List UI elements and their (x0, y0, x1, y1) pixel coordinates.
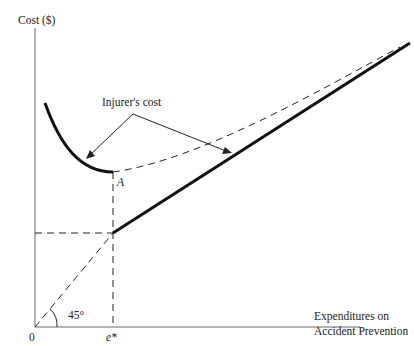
prevention-cost-line (113, 43, 410, 233)
angle-label: 45° (68, 309, 84, 323)
injurer-cost-solid-curve (45, 103, 113, 172)
optimum-label: e* (106, 331, 117, 345)
point-a-label: A (117, 176, 124, 190)
angle-arc (50, 309, 57, 327)
diagram-canvas (0, 0, 414, 346)
curve-annotation: Injurer's cost (102, 96, 161, 110)
y-axis-label: Cost ($) (18, 14, 55, 28)
annotation-pointer-right (133, 114, 226, 151)
annotation-pointer-left (90, 114, 133, 155)
x-axis-label-line1: Expenditures on (314, 310, 389, 324)
origin-label: 0 (29, 331, 35, 345)
arrowhead-right-icon (222, 147, 232, 154)
x-axis-label-line2: Accident Prevention (314, 325, 408, 339)
